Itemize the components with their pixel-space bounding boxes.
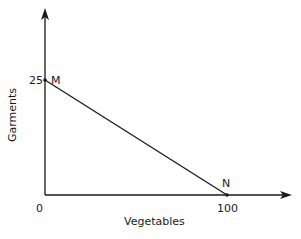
point-n-label: N bbox=[222, 178, 230, 189]
point-m bbox=[43, 78, 47, 82]
y-axis-title: Garments bbox=[6, 88, 19, 142]
x-axis-title: Vegetables bbox=[124, 216, 185, 227]
x-tick-100: 100 bbox=[217, 203, 238, 214]
point-n bbox=[225, 193, 229, 197]
chart-canvas bbox=[0, 0, 301, 239]
line-mn bbox=[45, 80, 227, 195]
y-tick-25: 25 bbox=[29, 75, 43, 86]
point-m-label: M bbox=[51, 75, 61, 86]
origin-label: 0 bbox=[36, 203, 43, 214]
